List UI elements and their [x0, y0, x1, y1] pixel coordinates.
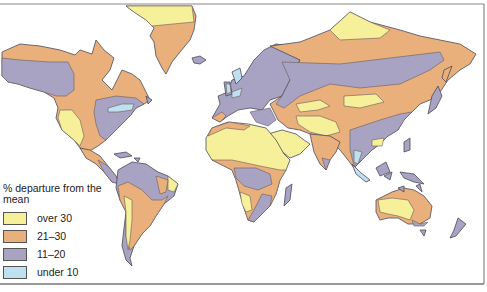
legend-swatch: [3, 266, 27, 279]
legend-title: % departure from the mean: [3, 183, 113, 205]
legend: % departure from the mean over 30 21–30 …: [3, 183, 113, 281]
legend-item-11-20: 11–20: [3, 245, 113, 263]
legend-item-21-30: 21–30: [3, 227, 113, 245]
legend-item-over-30: over 30: [3, 209, 113, 227]
iceland: [192, 56, 206, 64]
legend-label: 11–20: [37, 248, 65, 260]
legend-label: under 10: [37, 266, 78, 278]
map-figure: % departure from the mean over 30 21–30 …: [0, 0, 487, 292]
legend-item-under-10: under 10: [3, 263, 113, 281]
legend-swatch: [3, 248, 27, 261]
north-america: [2, 40, 152, 184]
greenland: [126, 6, 196, 74]
australia: [376, 184, 466, 238]
legend-label: 21–30: [37, 230, 66, 242]
legend-swatch: [3, 230, 27, 243]
south-america: [116, 162, 178, 266]
legend-swatch: [3, 212, 27, 225]
legend-label: over 30: [37, 212, 72, 224]
